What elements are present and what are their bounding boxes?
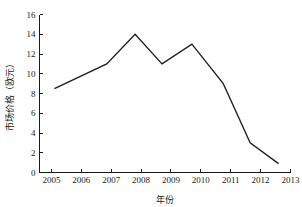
y-tick-label: 16: [27, 10, 37, 20]
y-tick-label: 8: [31, 89, 36, 99]
x-axis-ticks: 200520062007200820092010201120122013: [42, 169, 300, 185]
x-tick-label: 2009: [162, 175, 181, 185]
y-tick-label: 6: [31, 108, 36, 118]
y-tick-label: 4: [31, 128, 36, 138]
x-axis-title: 年份: [156, 194, 174, 205]
data-series-line: [54, 34, 278, 163]
y-tick-label: 0: [31, 168, 36, 178]
y-axis-ticks: 0246810121416: [27, 10, 44, 178]
x-tick-label: 2010: [192, 175, 211, 185]
x-tick-label: 2006: [72, 175, 91, 185]
x-tick-label: 2012: [252, 175, 270, 185]
y-tick-label: 2: [31, 148, 36, 158]
x-axis-group: 200520062007200820092010201120122013: [40, 169, 301, 185]
y-tick-label: 14: [27, 29, 37, 39]
x-tick-label: 2005: [42, 175, 61, 185]
x-tick-label: 2008: [132, 175, 151, 185]
x-tick-label: 2013: [282, 175, 301, 185]
y-tick-label: 10: [27, 69, 37, 79]
chart-canvas: 0246810121416 20052006200720082009201020…: [0, 0, 302, 207]
y-axis-title: 市场价格（欧元）: [4, 59, 15, 131]
x-tick-label: 2011: [222, 175, 240, 185]
plot-series-group: [54, 34, 278, 163]
y-axis-group: 0246810121416: [27, 10, 44, 178]
x-tick-label: 2007: [102, 175, 121, 185]
line-chart: 0246810121416 20052006200720082009201020…: [0, 0, 302, 207]
y-tick-label: 12: [27, 49, 36, 59]
